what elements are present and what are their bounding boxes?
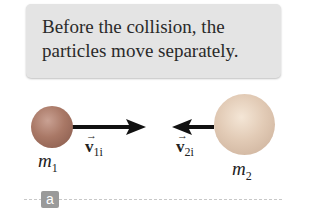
vector-arrow-icon: →: [86, 129, 97, 141]
panel-tag: a: [41, 191, 59, 208]
label-v1i: →v1i: [85, 137, 103, 160]
label-v2i: →v2i: [176, 137, 194, 160]
vector-arrow-icon: →: [177, 129, 188, 141]
divider: [24, 199, 282, 200]
arrow-v1i-icon: [72, 119, 146, 135]
label-m2: m2: [232, 158, 252, 184]
label-m1: m1: [38, 150, 58, 176]
particle-m2: [214, 94, 275, 155]
particle-m1: [31, 106, 73, 148]
